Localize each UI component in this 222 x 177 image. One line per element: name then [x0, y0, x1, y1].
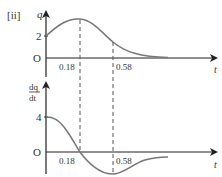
bottom-origin-label: O: [33, 146, 41, 158]
top-origin-label: O: [33, 52, 41, 64]
bottom-x-tick-2: 0.58: [116, 156, 132, 166]
top-x-label: t: [214, 64, 217, 75]
bottom-y-tick: 4: [36, 111, 42, 123]
q-curve: [46, 19, 168, 58]
top-y-label: q: [37, 8, 43, 20]
top-graph: q t O 2 0.18 0.58: [33, 8, 217, 77]
bottom-y-label-den: dt: [29, 93, 37, 103]
top-x-tick-2: 0.58: [116, 62, 132, 72]
bottom-graph: dq dt t O 4 0.18 0.58: [29, 82, 217, 174]
diagram-canvas: [ii] q t O 2 0.18 0.58 dq dt t O 4 0.18 …: [0, 0, 222, 177]
bottom-x-tick-1: 0.18: [59, 156, 75, 166]
bottom-y-label-num: dq: [29, 82, 39, 92]
top-x-tick-1: 0.18: [59, 62, 75, 72]
part-label: [ii]: [7, 9, 20, 21]
bottom-x-label: t: [214, 159, 217, 170]
top-y-tick: 2: [36, 30, 42, 42]
